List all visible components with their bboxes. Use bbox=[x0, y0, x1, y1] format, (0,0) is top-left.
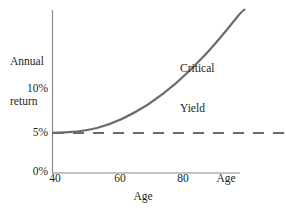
x-tick-label-40: 40 bbox=[45, 172, 65, 185]
y-axis-title-line-1: Annual bbox=[10, 55, 44, 68]
y-tick-label-10-percent: 10% bbox=[18, 82, 48, 95]
y-tick-label-5-percent: 5% bbox=[18, 126, 48, 139]
series-annotation-critical-yield: Critical Yield bbox=[180, 36, 215, 142]
y-tick-label-0-percent: 0% bbox=[18, 165, 48, 178]
y-axis-title-line-2: return bbox=[10, 95, 44, 108]
series-annotation-line-2: Yield bbox=[180, 102, 215, 115]
x-tick-label-age: Age bbox=[212, 172, 240, 185]
critical-yield-curve bbox=[53, 10, 245, 133]
x-axis-title: Age bbox=[123, 190, 163, 203]
series-annotation-line-1: Critical bbox=[180, 62, 215, 75]
chart-figure: Annual return 10% 5% 0% 40 60 80 Age Age… bbox=[0, 0, 286, 213]
x-tick-label-60: 60 bbox=[110, 172, 130, 185]
x-tick-label-80: 80 bbox=[173, 172, 193, 185]
